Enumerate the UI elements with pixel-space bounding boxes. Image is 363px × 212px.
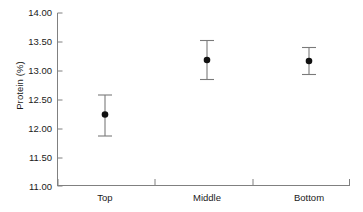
error-bar-top <box>98 95 112 136</box>
x-tick-label-middle: Middle <box>193 192 221 203</box>
data-point-marker <box>204 57 211 64</box>
error-bar-middle <box>200 41 214 80</box>
error-bar-bottom <box>302 48 316 75</box>
y-axis-ticks <box>58 13 63 186</box>
plot-area <box>0 0 363 212</box>
data-point-marker <box>306 58 313 65</box>
protein-errorbar-chart: Protein (%) 14.00 13.50 13.00 12.50 12.0… <box>0 0 363 212</box>
x-tick-label-top: Top <box>97 192 112 203</box>
x-tick-label-bottom: Bottom <box>294 192 324 203</box>
x-axis-ticks <box>58 179 350 186</box>
data-point-marker <box>102 111 109 118</box>
